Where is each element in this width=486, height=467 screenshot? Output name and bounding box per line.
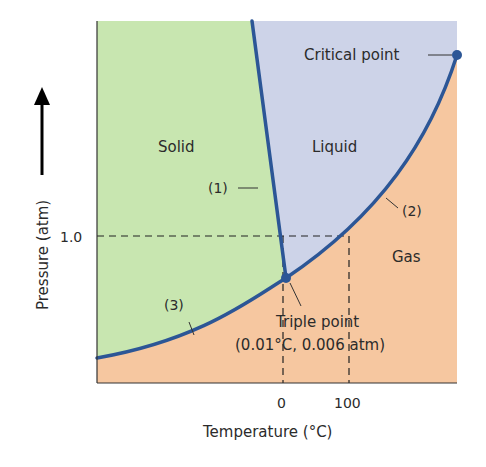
x-tick-100: 100 — [334, 395, 361, 411]
gas-label: Gas — [392, 248, 421, 266]
curve-1-label: (1) — [208, 180, 228, 196]
triple-point-label: Triple point — [275, 313, 359, 331]
triple-point-coords: (0.01°C, 0.006 atm) — [235, 336, 385, 354]
critical-point-marker — [452, 50, 462, 60]
x-axis-label: Temperature (°C) — [202, 423, 332, 441]
curve-2-label: (2) — [402, 203, 422, 219]
y-axis-label: Pressure (atm) — [34, 200, 52, 310]
curve-3-label: (3) — [164, 297, 184, 313]
phase-diagram: Solid Liquid Gas Critical point Triple p… — [0, 0, 486, 467]
critical-point-label: Critical point — [304, 46, 400, 64]
y-axis-arrow-icon — [34, 87, 50, 175]
y-tick-1: 1.0 — [60, 229, 82, 245]
triple-point-marker — [281, 273, 291, 283]
solid-label: Solid — [158, 138, 195, 156]
x-tick-0: 0 — [277, 395, 286, 411]
liquid-label: Liquid — [312, 138, 357, 156]
